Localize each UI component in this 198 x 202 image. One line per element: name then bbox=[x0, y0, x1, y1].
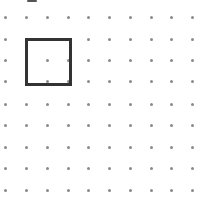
grid-dot[interactable] bbox=[150, 167, 153, 170]
grid-dot[interactable] bbox=[4, 189, 7, 192]
grid-dot[interactable] bbox=[129, 16, 132, 19]
grid-dot[interactable] bbox=[25, 103, 28, 106]
grid-dot[interactable] bbox=[67, 124, 70, 127]
grid-dot[interactable] bbox=[150, 59, 153, 62]
grid-dot[interactable] bbox=[108, 124, 111, 127]
grid-dot[interactable] bbox=[46, 146, 49, 149]
grid-dot[interactable] bbox=[4, 16, 7, 19]
grid-dot[interactable] bbox=[87, 80, 90, 83]
grid-dot[interactable] bbox=[150, 16, 153, 19]
grid-dot[interactable] bbox=[191, 103, 194, 106]
grid-dot[interactable] bbox=[67, 189, 70, 192]
grid-dot[interactable] bbox=[170, 16, 173, 19]
grid-dot[interactable] bbox=[150, 80, 153, 83]
grid-dot[interactable] bbox=[87, 103, 90, 106]
grid-dot[interactable] bbox=[191, 167, 194, 170]
grid-dot[interactable] bbox=[87, 124, 90, 127]
grid-dot[interactable] bbox=[170, 146, 173, 149]
grid-dot[interactable] bbox=[150, 38, 153, 41]
grid-dot[interactable] bbox=[87, 59, 90, 62]
grid-dot[interactable] bbox=[25, 189, 28, 192]
grid-dot[interactable] bbox=[150, 124, 153, 127]
grid-dot[interactable] bbox=[87, 167, 90, 170]
grid-dot[interactable] bbox=[25, 167, 28, 170]
dot-grid-board[interactable] bbox=[0, 0, 198, 202]
grid-dot[interactable] bbox=[67, 16, 70, 19]
grid-dot[interactable] bbox=[25, 16, 28, 19]
grid-dot[interactable] bbox=[87, 38, 90, 41]
grid-dot[interactable] bbox=[150, 189, 153, 192]
grid-dot[interactable] bbox=[4, 124, 7, 127]
grid-dot[interactable] bbox=[108, 146, 111, 149]
grid-dot[interactable] bbox=[108, 16, 111, 19]
grid-dot[interactable] bbox=[87, 189, 90, 192]
grid-dot[interactable] bbox=[170, 189, 173, 192]
grid-dot[interactable] bbox=[46, 124, 49, 127]
grid-dot[interactable] bbox=[170, 103, 173, 106]
grid-dot[interactable] bbox=[129, 124, 132, 127]
grid-dot[interactable] bbox=[4, 59, 7, 62]
grid-dot[interactable] bbox=[46, 167, 49, 170]
grid-dot[interactable] bbox=[87, 16, 90, 19]
grid-dot[interactable] bbox=[150, 146, 153, 149]
grid-dot[interactable] bbox=[46, 16, 49, 19]
grid-dot[interactable] bbox=[4, 146, 7, 149]
grid-dot[interactable] bbox=[170, 167, 173, 170]
partial-top-element bbox=[27, 0, 37, 2]
grid-dot[interactable] bbox=[108, 80, 111, 83]
grid-dot[interactable] bbox=[46, 189, 49, 192]
grid-dot[interactable] bbox=[25, 146, 28, 149]
grid-dot[interactable] bbox=[4, 103, 7, 106]
grid-dot[interactable] bbox=[191, 80, 194, 83]
grid-dot[interactable] bbox=[191, 38, 194, 41]
grid-dot[interactable] bbox=[191, 124, 194, 127]
grid-dot[interactable] bbox=[129, 59, 132, 62]
grid-dot[interactable] bbox=[4, 167, 7, 170]
grid-dot[interactable] bbox=[129, 80, 132, 83]
grid-dot[interactable] bbox=[170, 124, 173, 127]
grid-dot[interactable] bbox=[67, 146, 70, 149]
grid-dot[interactable] bbox=[191, 16, 194, 19]
grid-dot[interactable] bbox=[170, 59, 173, 62]
grid-dot[interactable] bbox=[108, 103, 111, 106]
grid-dot[interactable] bbox=[170, 80, 173, 83]
grid-dot[interactable] bbox=[129, 146, 132, 149]
grid-dot[interactable] bbox=[150, 103, 153, 106]
grid-dot[interactable] bbox=[25, 124, 28, 127]
grid-dot[interactable] bbox=[67, 103, 70, 106]
grid-dot[interactable] bbox=[191, 189, 194, 192]
grid-dot[interactable] bbox=[108, 38, 111, 41]
grid-dot[interactable] bbox=[67, 167, 70, 170]
grid-dot[interactable] bbox=[108, 167, 111, 170]
grid-dot[interactable] bbox=[4, 38, 7, 41]
grid-dot[interactable] bbox=[129, 189, 132, 192]
grid-dot[interactable] bbox=[191, 59, 194, 62]
grid-dot[interactable] bbox=[129, 103, 132, 106]
grid-dot[interactable] bbox=[4, 80, 7, 83]
grid-dot[interactable] bbox=[108, 59, 111, 62]
grid-dot[interactable] bbox=[129, 167, 132, 170]
grid-dot[interactable] bbox=[170, 38, 173, 41]
grid-dot[interactable] bbox=[108, 189, 111, 192]
grid-dot[interactable] bbox=[87, 146, 90, 149]
drawn-square[interactable] bbox=[25, 38, 72, 86]
grid-dot[interactable] bbox=[46, 103, 49, 106]
grid-dot[interactable] bbox=[191, 146, 194, 149]
grid-dot[interactable] bbox=[129, 38, 132, 41]
